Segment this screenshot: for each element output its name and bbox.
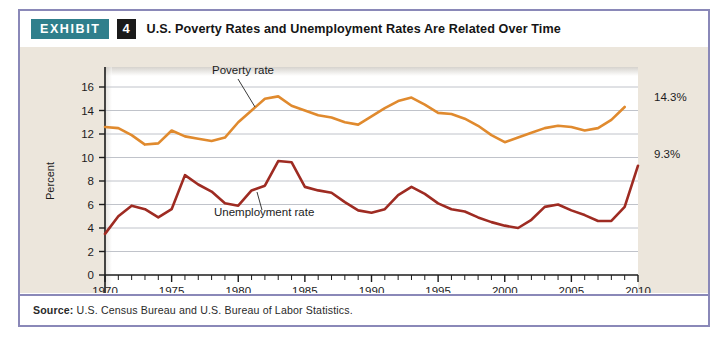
y-tick-label: 6: [88, 199, 94, 211]
source-label: Source:: [33, 304, 74, 316]
x-tick-label: 2000: [492, 285, 518, 293]
line-chart: 0246810121416 19701975198019851990199520…: [20, 47, 708, 293]
plot-inner-shadow-top: [105, 67, 638, 76]
exhibit-header: EXHIBIT 4 U.S. Poverty Rates and Unemplo…: [20, 11, 708, 47]
x-tick-label: 1975: [159, 285, 185, 293]
exhibit-badge: EXHIBIT: [31, 19, 109, 39]
y-tick-label: 10: [81, 152, 94, 164]
x-tick-label: 1985: [292, 285, 318, 293]
source-text: U.S. Census Bureau and U.S. Bureau of La…: [77, 304, 353, 316]
chart-canvas: 0246810121416 19701975198019851990199520…: [20, 47, 708, 293]
page-title: U.S. Poverty Rates and Unemployment Rate…: [147, 22, 561, 36]
x-tick-label: 1995: [425, 285, 451, 293]
footer-divider: [20, 294, 708, 296]
x-tick-label: 2005: [559, 285, 585, 293]
y-axis-ticks: 0246810121416: [81, 81, 105, 281]
end-label-unemployment-rate: 9.3%: [654, 148, 680, 160]
source-note: Source: U.S. Census Bureau and U.S. Bure…: [33, 304, 353, 316]
y-tick-label: 12: [81, 128, 94, 140]
y-tick-label: 16: [81, 81, 94, 93]
annotation-unemployment-rate: Unemployment rate: [214, 206, 314, 218]
x-tick-label: 1980: [225, 285, 251, 293]
exhibit-number-box: 4: [117, 19, 136, 39]
y-tick-label: 14: [81, 105, 94, 117]
x-tick-label: 2010: [625, 285, 651, 293]
y-tick-label: 0: [88, 269, 94, 281]
x-tick-label: 1990: [359, 285, 385, 293]
annotation-poverty-rate: Poverty rate: [212, 64, 274, 76]
y-tick-label: 4: [88, 222, 95, 234]
plot-area-background: [105, 67, 638, 293]
end-label-poverty-rate: 14.3%: [654, 91, 687, 103]
exhibit-frame: EXHIBIT 4 U.S. Poverty Rates and Unemplo…: [18, 9, 710, 327]
y-tick-label: 2: [88, 246, 94, 258]
y-tick-label: 8: [88, 175, 94, 187]
plot-inner-shadow-left: [105, 67, 112, 293]
y-axis-label: Percent: [44, 162, 56, 200]
